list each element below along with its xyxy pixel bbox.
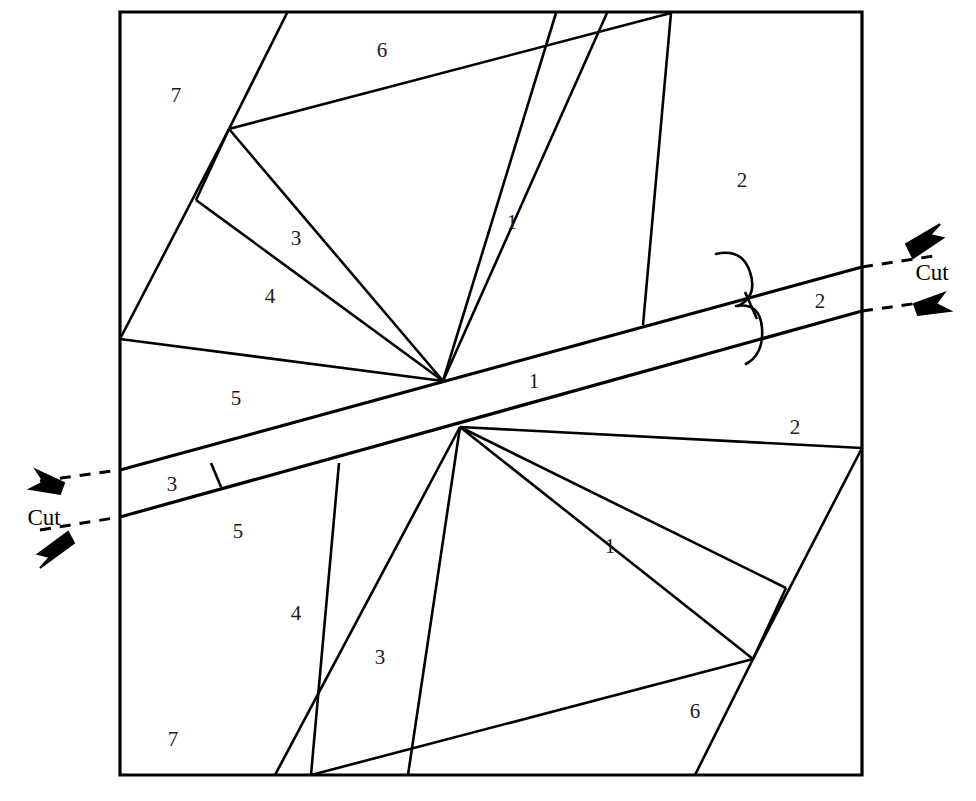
- cut-line-upper-1: [120, 129, 229, 339]
- cut-line-lower-4: [460, 427, 786, 588]
- piece-label-2-top: 2: [737, 168, 748, 193]
- brace-marks-right: [716, 253, 762, 364]
- cut-arrow-left-lower: [38, 532, 74, 568]
- cut-line-upper-3: [229, 129, 443, 381]
- fan-ray-upper-0: [443, 13, 607, 381]
- piece-label-1-bottom: 1: [605, 534, 616, 559]
- cut-line-upper-6: [643, 13, 671, 325]
- strip-lower-edge: [120, 311, 862, 517]
- piece-label-4-bottom: 4: [291, 601, 302, 626]
- piece-label-1-top: 1: [507, 210, 518, 235]
- cut-line-lower-7: [753, 588, 786, 659]
- piece-label-7-top: 7: [171, 83, 182, 108]
- cut-label-left: Cut: [27, 505, 60, 531]
- cut-line-lower-1: [753, 448, 862, 659]
- upper-fan-rays: [443, 13, 607, 381]
- strip-upper-edge: [120, 267, 862, 470]
- cut-line-upper-2: [229, 13, 671, 129]
- cut-arrow-right-upper: [906, 224, 943, 258]
- strip-crossline-left: [211, 463, 221, 487]
- piece-label-6-bottom: 6: [690, 699, 701, 724]
- piece-label-2-strip: 2: [815, 289, 826, 314]
- dissection-diagram: [0, 0, 976, 801]
- piece-label-5-bottom: 5: [233, 519, 244, 544]
- cut-line-lower-0: [695, 659, 753, 775]
- cut-arrow-left-upper: [30, 470, 64, 494]
- cut-label-right: Cut: [915, 260, 948, 286]
- piece-label-3-bottom: 3: [375, 645, 386, 670]
- piece-label-1-strip: 1: [529, 369, 540, 394]
- fan-ray-lower-1: [408, 427, 460, 775]
- cut-arrow-right-lower: [914, 293, 950, 315]
- piece-label-7-bottom: 7: [168, 727, 179, 752]
- cut-line-upper-7: [196, 129, 229, 200]
- lower-half-cut-lines: [311, 427, 862, 775]
- figure-canvas: 76341225123514367 CutCut: [0, 0, 976, 801]
- piece-label-3-strip: 3: [167, 472, 178, 497]
- upper-half-cut-lines: [120, 13, 671, 381]
- piece-label-4-top: 4: [265, 284, 276, 309]
- cut-line-lower-5: [460, 427, 862, 448]
- cut-line-lower-2: [311, 659, 753, 775]
- cut-line-lower-6: [311, 463, 339, 775]
- piece-label-5-top: 5: [231, 386, 242, 411]
- piece-label-2-bottom: 2: [790, 415, 801, 440]
- fan-ray-lower-0: [275, 427, 460, 775]
- cut-line-upper-0: [229, 13, 287, 129]
- lower-fan-rays: [275, 427, 460, 775]
- piece-label-6-top: 6: [377, 38, 388, 63]
- piece-label-3-top: 3: [291, 226, 302, 251]
